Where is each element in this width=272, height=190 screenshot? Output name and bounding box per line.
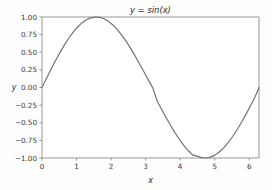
y-tick-label: 0.25 bbox=[21, 65, 37, 74]
x-tick-label: 3 bbox=[143, 162, 148, 171]
y-tick-label: 0.75 bbox=[21, 30, 37, 39]
y-tick-label: −1.00 bbox=[15, 154, 37, 163]
y-tick-label: −0.50 bbox=[15, 118, 37, 127]
x-tick-label: 2 bbox=[109, 162, 114, 171]
chart-figure: y = sin(x) 1.000.750.500.250.00−0.25−0.5… bbox=[0, 0, 272, 190]
x-axis-label: x bbox=[147, 176, 153, 185]
y-tick-label: −0.25 bbox=[15, 101, 37, 110]
y-tick-label: 0.50 bbox=[21, 48, 37, 57]
y-tick-label: −0.75 bbox=[15, 136, 37, 145]
y-tick-label: 0.00 bbox=[21, 83, 37, 92]
y-tick-label: 1.00 bbox=[21, 13, 37, 22]
x-tick-label: 0 bbox=[40, 162, 45, 171]
chart-canvas: y = sin(x) 1.000.750.500.250.00−0.25−0.5… bbox=[0, 0, 272, 190]
x-tick-label: 6 bbox=[247, 162, 252, 171]
x-tick-label: 1 bbox=[74, 162, 79, 171]
x-tick-label: 4 bbox=[178, 162, 183, 171]
plot-area-background bbox=[42, 17, 259, 158]
x-tick-label: 5 bbox=[212, 162, 217, 171]
chart-title: y = sin(x) bbox=[129, 5, 171, 15]
y-axis-label: y bbox=[11, 83, 17, 92]
